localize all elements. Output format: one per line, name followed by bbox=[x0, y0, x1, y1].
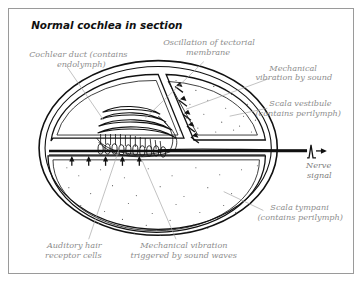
basilar-membrane-nerve-fibre bbox=[49, 149, 307, 155]
hair-cells-line1: Auditory hair bbox=[46, 240, 103, 250]
leader-scala-tympani bbox=[224, 192, 264, 211]
label-cochlear-duct: Cochlear duct (contains endolymph) bbox=[29, 49, 127, 69]
page-title: Normal cochlea in section bbox=[31, 19, 182, 31]
leader-cochlear-duct bbox=[67, 67, 104, 121]
hair-cells-line2: receptor cells bbox=[45, 250, 102, 260]
label-scala-tympani: Scala tympani (contains perilymph) bbox=[257, 202, 343, 222]
tectorial-line2: membrane bbox=[186, 47, 230, 57]
label-nerve-signal: Nerve signal bbox=[305, 160, 332, 180]
tectorial-line1: Oscillation of tectorial bbox=[163, 37, 255, 47]
scala-vestibule-line2: (contains perilymph) bbox=[255, 108, 341, 118]
tympani-arrows bbox=[69, 156, 142, 166]
vestibuli-arrows bbox=[175, 82, 199, 143]
mech-vib-waves-line1: Mechanical vibration bbox=[139, 240, 227, 250]
scala-tympani-stipple bbox=[66, 165, 258, 236]
scala-tympani-line2: (contains perilymph) bbox=[257, 212, 343, 222]
scala-vestibule-line1: Scala vestibule bbox=[269, 98, 331, 108]
scala-tympani-line1: Scala tympani bbox=[270, 202, 329, 212]
mech-vib-waves-line2: triggered by sound waves bbox=[130, 250, 237, 260]
nerve-signal-line2: signal bbox=[307, 170, 332, 180]
cochlear-duct-line1: Cochlear duct (contains bbox=[29, 49, 127, 59]
label-mechanical-vibration-waves: Mechanical vibration triggered by sound … bbox=[130, 240, 237, 260]
label-mechanical-vibration-sound: Mechanical vibration by sound bbox=[255, 63, 332, 83]
leader-tectorial bbox=[145, 62, 204, 119]
action-potential-spike-icon bbox=[307, 145, 327, 158]
leader-vibration-waves bbox=[142, 161, 176, 239]
label-scala-vestibule: Scala vestibule (contains perilymph) bbox=[255, 98, 341, 118]
figure-panel: Normal cochlea in section bbox=[8, 8, 354, 274]
label-tectorial-membrane: Oscillation of tectorial membrane bbox=[163, 37, 255, 57]
cochlear-duct-line2: endolymph) bbox=[57, 59, 106, 69]
mech-vib-sound-line2: vibration by sound bbox=[255, 72, 332, 82]
cochlea-diagram: Normal cochlea in section bbox=[9, 9, 353, 273]
label-auditory-hair-cells: Auditory hair receptor cells bbox=[45, 240, 103, 260]
nerve-signal-line1: Nerve bbox=[305, 160, 331, 170]
mech-vib-sound-line1: Mechanical bbox=[268, 63, 317, 73]
